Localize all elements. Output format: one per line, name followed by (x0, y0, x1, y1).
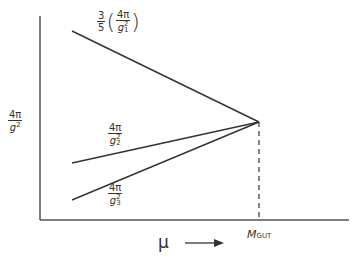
line-g1 (72, 31, 259, 122)
arrow-right-icon (214, 239, 224, 247)
mgut-label: MGUT (247, 228, 271, 241)
x-axis-label-mu: μ (158, 232, 169, 252)
line-g3 (72, 122, 259, 200)
line-g2 (72, 122, 259, 163)
label-g3: 4π g23 (108, 183, 122, 206)
y-axis-label: 4π g2 (8, 110, 22, 133)
label-g2: 4π g22 (108, 123, 122, 146)
diagram-canvas (0, 0, 361, 265)
label-g1: 3 5 ( 4π g21 ) (97, 10, 141, 33)
